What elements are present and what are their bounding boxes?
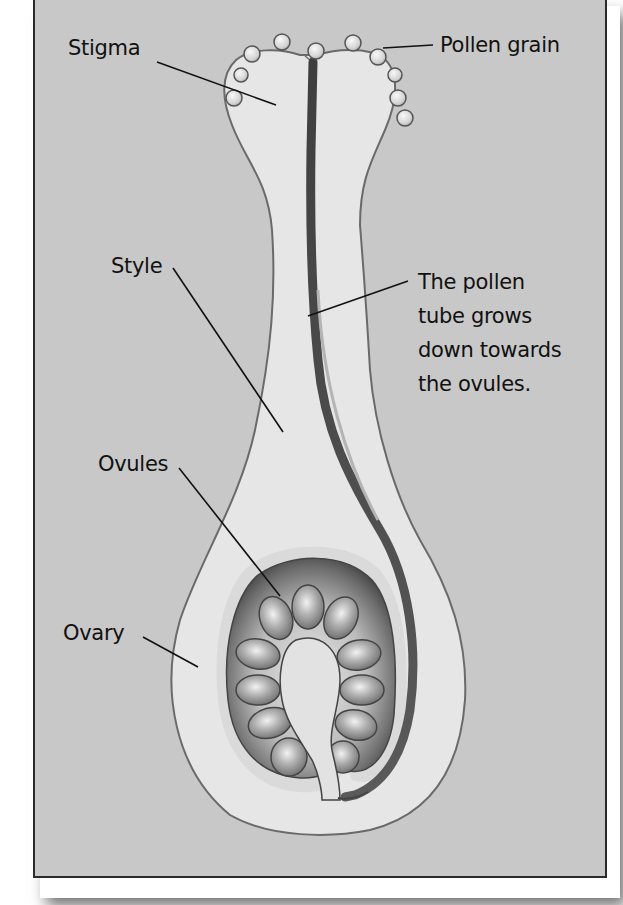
pollen-grain bbox=[397, 110, 413, 126]
pollen-grain bbox=[244, 46, 260, 62]
pollen-grain bbox=[345, 35, 361, 51]
ovule bbox=[292, 585, 324, 629]
label-pollen-tube: The pollen tube grows down towards the o… bbox=[418, 265, 568, 401]
pistil-diagram bbox=[0, 0, 623, 905]
label-stigma: Stigma bbox=[68, 35, 140, 61]
pollen-grain bbox=[370, 49, 386, 65]
label-pollen-tube-line3: down towards bbox=[418, 333, 568, 367]
label-pollen-tube-line4: the ovules. bbox=[418, 367, 568, 401]
label-pollen-tube-line2: tube grows bbox=[418, 299, 568, 333]
pollen-grain bbox=[274, 34, 290, 50]
label-pollen-grain: Pollen grain bbox=[440, 32, 560, 58]
pollen-grain bbox=[390, 90, 406, 106]
pollen-grain bbox=[234, 68, 248, 82]
label-pollen-tube-line1: The pollen bbox=[418, 265, 568, 299]
label-ovary: Ovary bbox=[63, 620, 124, 646]
style-leader-line bbox=[173, 268, 283, 432]
label-style: Style bbox=[111, 253, 162, 279]
pollen-grain bbox=[308, 43, 324, 59]
label-ovules: Ovules bbox=[98, 451, 168, 477]
ovule bbox=[236, 675, 280, 705]
pollen-grain bbox=[388, 68, 402, 82]
pollen-grain-leader-line bbox=[383, 45, 433, 48]
ovule bbox=[340, 675, 384, 705]
